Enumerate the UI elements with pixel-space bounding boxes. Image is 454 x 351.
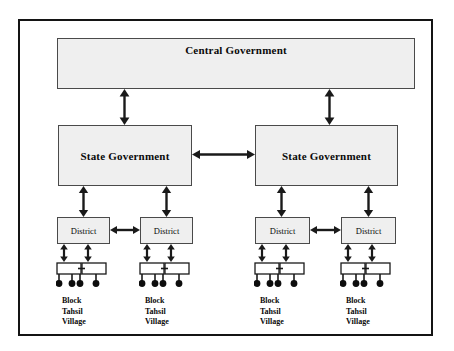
central-government-label: Central Government <box>58 44 414 56</box>
leaf-group-4-labels: Block Tahsil Village <box>346 296 370 328</box>
leaf-group-2-line-3: Village <box>145 317 169 328</box>
district-3-label: District <box>256 226 309 236</box>
leaf-group-2-labels: Block Tahsil Village <box>145 296 169 328</box>
state-government-left-label: State Government <box>59 150 191 162</box>
district-2-label: District <box>141 226 192 236</box>
leaf-group-4-line-1: Block <box>346 296 370 307</box>
node-district-1: District <box>57 217 110 244</box>
leaf-group-1 <box>56 244 118 290</box>
node-state-government-right: State Government <box>255 125 398 186</box>
arrow-state-right-to-district-4 <box>362 186 375 217</box>
node-central-government: Central Government <box>57 38 415 89</box>
leaf-group-3 <box>254 244 316 290</box>
leaf-group-3-line-3: Village <box>260 317 284 328</box>
arrow-state-left-to-district-1 <box>77 186 90 217</box>
leaf-group-2 <box>139 244 201 290</box>
leaf-group-3-line-1: Block <box>260 296 284 307</box>
leaf-group-2-line-1: Block <box>145 296 169 307</box>
leaf-group-4-line-2: Tahsil <box>346 307 370 318</box>
leaf-group-3-line-2: Tahsil <box>260 307 284 318</box>
leaf-group-1-labels: Block Tahsil Village <box>62 296 86 328</box>
district-4-label: District <box>342 226 395 236</box>
leaf-group-1-line-1: Block <box>62 296 86 307</box>
leaf-group-1-line-3: Village <box>62 317 86 328</box>
arrow-district-3-to-district-4 <box>310 224 341 236</box>
arrow-state-right-to-district-3 <box>275 186 288 217</box>
leaf-group-3-labels: Block Tahsil Village <box>260 296 284 328</box>
leaf-group-4-line-3: Village <box>346 317 370 328</box>
arrow-central-to-state-left <box>118 89 131 125</box>
arrow-state-to-state <box>192 148 255 161</box>
diagram-page: Central Government State Government Stat… <box>0 0 454 351</box>
arrow-central-to-state-right <box>323 89 336 125</box>
node-district-4: District <box>341 217 396 244</box>
district-1-label: District <box>58 226 109 236</box>
arrow-district-1-to-district-2 <box>110 224 140 236</box>
leaf-group-4 <box>340 244 402 290</box>
arrow-state-left-to-district-2 <box>160 186 173 217</box>
leaf-group-2-line-2: Tahsil <box>145 307 169 318</box>
leaf-group-1-line-2: Tahsil <box>62 307 86 318</box>
node-district-3: District <box>255 217 310 244</box>
node-district-2: District <box>140 217 193 244</box>
state-government-right-label: State Government <box>256 150 397 162</box>
node-state-government-left: State Government <box>58 125 192 186</box>
